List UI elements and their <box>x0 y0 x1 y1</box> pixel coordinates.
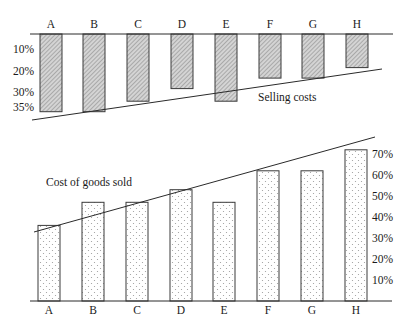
selling-costs-bar-b <box>83 34 105 112</box>
category-label-top-b: B <box>90 18 98 30</box>
category-label-top-a: A <box>47 18 56 30</box>
chart-figure: ABCDEFGH10%20%30%35%Selling costs ABCDEF… <box>0 0 413 333</box>
selling-costs-bar-e <box>215 34 237 101</box>
cogs-bar-b <box>82 202 104 301</box>
selling-costs-bar-c <box>127 34 149 101</box>
cogs-tick-label: 30% <box>372 232 394 244</box>
category-label-top-f: F <box>267 18 273 30</box>
selling-costs-chart: ABCDEFGH10%20%30%35%Selling costs <box>13 18 393 120</box>
selling-costs-bar-h <box>346 34 368 68</box>
cogs-bar-f <box>257 171 279 301</box>
selling-costs-bar-d <box>171 34 193 89</box>
selling-costs-tick-label: 30% <box>13 86 35 98</box>
category-label-top-d: D <box>178 18 186 30</box>
category-label-bottom-e: E <box>220 304 227 316</box>
selling-costs-bar-f <box>259 34 281 78</box>
cogs-tick-label: 50% <box>372 190 394 202</box>
selling-costs-bar-g <box>302 34 324 78</box>
selling-costs-tick-label: 35% <box>13 101 35 113</box>
category-label-bottom-h: H <box>352 304 360 316</box>
category-label-top-c: C <box>134 18 142 30</box>
cogs-bar-g <box>301 171 323 301</box>
cogs-tick-label: 70% <box>372 148 394 160</box>
selling-costs-annotation: Selling costs <box>258 91 317 104</box>
category-label-bottom-c: C <box>133 304 141 316</box>
chart-canvas: ABCDEFGH10%20%30%35%Selling costs ABCDEF… <box>0 0 413 333</box>
category-label-top-e: E <box>222 18 229 30</box>
cogs-tick-label: 60% <box>372 169 394 181</box>
category-label-bottom-a: A <box>45 304 54 316</box>
cogs-bar-h <box>345 150 367 301</box>
cogs-annotation: Cost of goods sold <box>46 176 132 189</box>
cogs-bar-c <box>126 202 148 301</box>
category-label-bottom-b: B <box>89 304 97 316</box>
cogs-bar-d <box>170 190 192 301</box>
cogs-tick-label: 20% <box>372 253 394 265</box>
selling-costs-tick-label: 10% <box>13 43 35 55</box>
cogs-tick-label: 10% <box>372 274 394 286</box>
category-label-top-g: G <box>309 18 317 30</box>
category-label-top-h: H <box>353 18 361 30</box>
cost-of-goods-chart: ABCDEFGH10%20%30%40%50%60%70%Cost of goo… <box>30 137 394 316</box>
category-label-bottom-d: D <box>177 304 185 316</box>
category-label-bottom-g: G <box>308 304 316 316</box>
cogs-bar-e <box>213 202 235 301</box>
cogs-bar-a <box>38 225 60 301</box>
selling-costs-tick-label: 20% <box>13 65 35 77</box>
cogs-tick-label: 40% <box>372 211 394 223</box>
selling-costs-bar-a <box>40 34 62 112</box>
category-label-bottom-f: F <box>265 304 271 316</box>
